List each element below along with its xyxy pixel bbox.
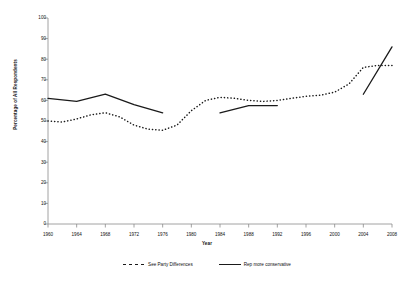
series-line-rep-more-conservative-seg3 [363,47,392,94]
y-tick-label: 50 [24,118,46,123]
y-tick-label: 40 [24,139,46,144]
legend-label: Rep more conservative [244,262,291,267]
x-tick-label: 1992 [262,232,292,238]
series-line-rep-more-conservative-seg2 [220,106,277,113]
series-line-see-party-differences [48,65,392,130]
y-axis-title: Percentage of All Respondents [13,40,18,150]
x-axis-tick-labels: 1960196419681972197619801984198819921996… [0,228,414,240]
x-tick-label: 2004 [348,232,378,238]
y-tick-label: 100 [24,15,46,20]
legend-solid-line-icon [219,263,241,266]
y-tick-label: 10 [24,201,46,206]
x-axis-title: Year [0,241,414,246]
series-line-rep-more-conservative-seg1 [48,94,163,113]
y-tick-label: 60 [24,98,46,103]
y-tick-label: 90 [24,36,46,41]
chart-legend: See Party Differences Rep more conservat… [0,262,414,267]
chart-container: Percentage of All Respondents 0102030405… [0,0,414,285]
y-tick-label: 30 [24,160,46,165]
y-tick-label: 0 [24,221,46,226]
x-tick-label: 1960 [33,232,63,238]
y-tick-label: 20 [24,180,46,185]
x-tick-label: 1972 [119,232,149,238]
legend-label: See Party Differences [148,262,193,267]
x-tick-label: 2000 [320,232,350,238]
x-tick-label: 1996 [291,232,321,238]
legend-item-see-party-differences: See Party Differences [123,262,193,267]
data-series-layer [48,47,392,130]
y-tick-label: 80 [24,57,46,62]
axis-lines [48,18,392,224]
x-tick-label: 1968 [90,232,120,238]
y-tick-label: 70 [24,77,46,82]
x-tick-label: 1976 [148,232,178,238]
legend-dashed-line-icon [123,263,145,266]
legend-item-rep-more-conservative: Rep more conservative [219,262,291,267]
x-tick-label: 1988 [234,232,264,238]
x-axis-ticks [48,224,392,228]
x-tick-label: 1964 [62,232,92,238]
x-tick-label: 1980 [176,232,206,238]
x-tick-label: 1984 [205,232,235,238]
x-tick-label: 2008 [377,232,407,238]
